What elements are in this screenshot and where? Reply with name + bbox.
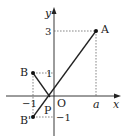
point-A <box>94 29 98 33</box>
label-origin: O <box>57 97 66 110</box>
tick-x-neg1: −1 <box>22 98 37 109</box>
label-x-axis: x <box>113 98 120 111</box>
point-Bprime <box>31 115 35 119</box>
point-B <box>31 71 35 75</box>
label-A: A <box>100 23 110 36</box>
label-B: B <box>20 66 28 79</box>
y-axis-arrow-icon <box>52 7 57 14</box>
tick-y-3: 3 <box>45 26 51 37</box>
tick-y-neg1: −1 <box>56 112 71 123</box>
tick-x-a: a <box>93 98 100 111</box>
tick-y-1: 1 <box>46 68 52 79</box>
label-Bprime: B' <box>20 114 31 127</box>
coordinate-diagram: A B B' P O y x 3 1 −1 −1 a <box>0 0 126 139</box>
label-y-axis: y <box>44 7 52 20</box>
label-P: P <box>44 104 52 117</box>
